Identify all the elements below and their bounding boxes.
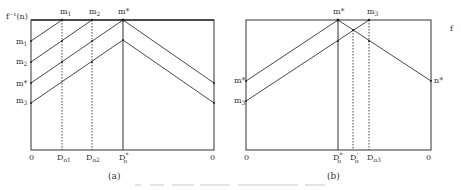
line-m3-rise <box>246 20 369 101</box>
left-label-m3: m3 <box>16 96 28 106</box>
bottom-label-origin: 0 <box>29 153 34 162</box>
panel-b: m* m3 m* m3 n* f 0 D*o D'o Do3 0 (b) <box>234 7 454 181</box>
line-mstar-rise <box>246 20 338 81</box>
top-label-m3: m3 <box>367 7 379 17</box>
top-label-mstar: m* <box>333 7 345 16</box>
line-m1 <box>31 20 62 41</box>
left-label-m1: m1 <box>16 37 27 47</box>
line-desc-1 <box>123 20 214 83</box>
bottom-label-d-star-o: D*o <box>333 151 342 164</box>
left-label-m2: m2 <box>16 57 28 67</box>
y-axis-label: f⁻¹(n) <box>6 12 28 21</box>
panel-b-label: (b) <box>327 171 340 181</box>
right-label-nstar: n* <box>434 76 443 85</box>
bottom-label-d-prime-o: D'o <box>350 151 359 164</box>
panel-a-label: (a) <box>108 171 120 181</box>
line-desc-2 <box>123 40 214 103</box>
bottom-label-d-o1: Do1 <box>57 153 71 163</box>
bottom-label-end: 0 <box>210 153 215 162</box>
right-edge-mark: f <box>450 24 454 33</box>
top-label-m1: m1 <box>60 7 71 17</box>
bottom-label-d-o3: Do3 <box>367 153 381 163</box>
top-label-m2: m2 <box>89 7 101 17</box>
left-label-mstar: m* <box>234 76 246 85</box>
top-label-mstar: m* <box>118 7 130 16</box>
line-desc <box>338 20 431 81</box>
figure-caption-faint <box>135 184 325 186</box>
figure-canvas: f⁻¹(n) m1 m2 m* m1 m2 m* m3 0 Do1 Do2 D*… <box>0 0 461 190</box>
left-label-m3: m3 <box>234 96 246 106</box>
bottom-label-d-o2: Do2 <box>86 153 100 163</box>
bottom-label-end: 0 <box>426 153 431 162</box>
bottom-label-d-star-o: D*o <box>119 151 128 164</box>
left-label-mstar: m* <box>16 79 28 88</box>
bottom-label-origin: 0 <box>244 153 249 162</box>
line-m3 <box>31 40 123 103</box>
panel-a: f⁻¹(n) m1 m2 m* m1 m2 m* m3 0 Do1 Do2 D*… <box>6 7 215 181</box>
line-mstar <box>31 20 123 83</box>
